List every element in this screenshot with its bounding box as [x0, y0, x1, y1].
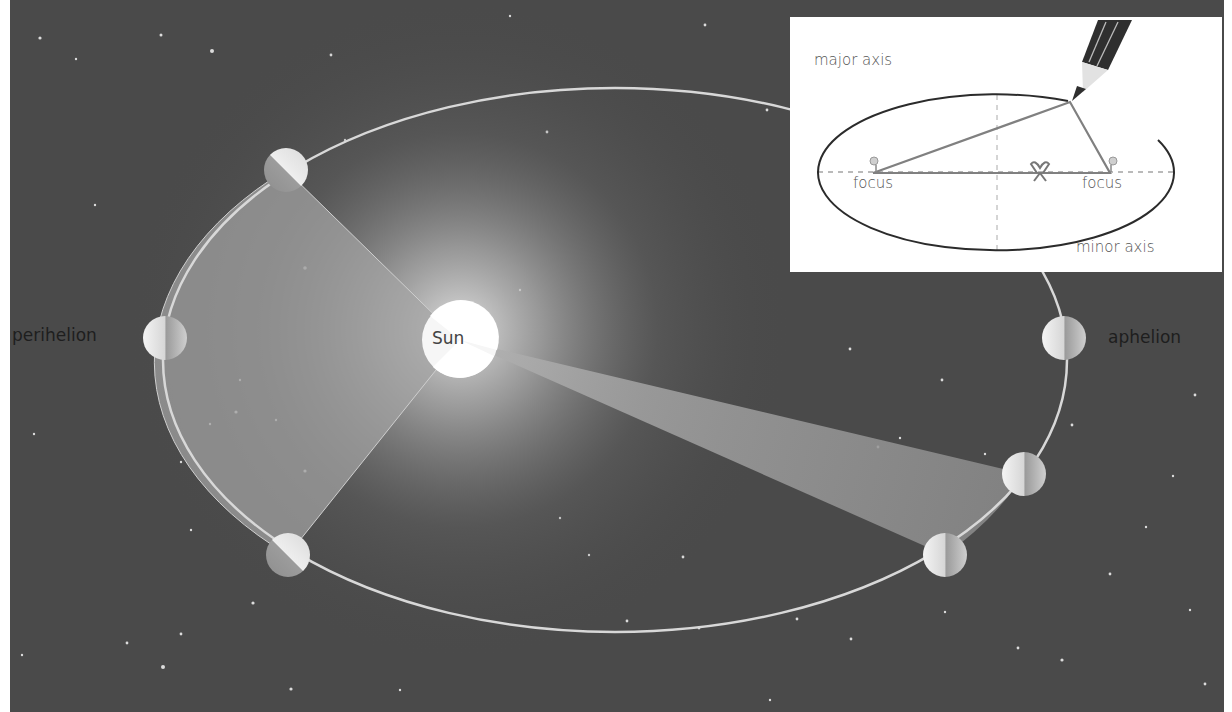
sun-label: Sun — [432, 328, 464, 348]
major-axis-label: major axis — [814, 51, 892, 69]
planet-top-left — [264, 148, 308, 192]
planet-aphelion — [1042, 316, 1086, 360]
focus-right-label: focus — [1082, 174, 1122, 192]
perihelion-label: perihelion — [12, 325, 97, 345]
focus-left-label: focus — [853, 174, 893, 192]
planet-lower-right-upper — [1002, 452, 1046, 496]
planet-lower-right-lower — [923, 533, 967, 577]
aphelion-label: aphelion — [1108, 327, 1181, 347]
planet-bottom-left — [266, 533, 310, 577]
minor-axis-label: minor axis — [1076, 238, 1154, 256]
orbit-diagram — [0, 0, 1232, 712]
planet-perihelion — [143, 316, 187, 360]
